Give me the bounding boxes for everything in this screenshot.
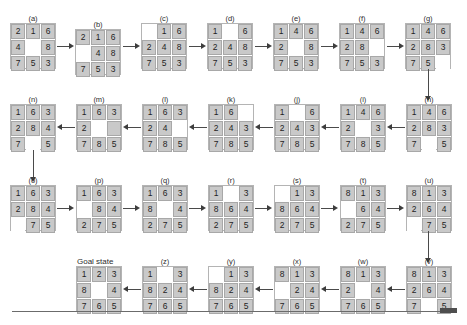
tile: 3 <box>41 105 55 120</box>
tile: 3 <box>107 105 121 120</box>
tile: 6 <box>422 202 436 217</box>
tile: 8 <box>421 40 435 55</box>
arrow-head-icon <box>255 286 260 292</box>
puzzle-grid-l: 1 6 3 2 4 7 8 5 <box>142 104 188 150</box>
tile: 8 <box>238 40 252 55</box>
tile: 2 <box>341 121 355 136</box>
tile: 3 <box>238 56 252 71</box>
arrow-l-m <box>128 127 141 128</box>
tile: 5 <box>107 137 121 152</box>
tile: 7 <box>340 56 354 71</box>
arrow-j-k <box>260 127 273 128</box>
tile: 2 <box>158 283 172 298</box>
arrow-u-v <box>428 231 429 260</box>
tile: 2 <box>142 40 156 55</box>
tile: 3 <box>172 56 186 71</box>
tile: 2 <box>11 121 25 136</box>
node-label-m: (m) <box>76 95 122 104</box>
arrow-head-icon <box>387 286 392 292</box>
node-label-t: (t) <box>340 176 386 185</box>
tile: 2 <box>208 40 222 55</box>
tile: 6 <box>436 24 450 39</box>
tile: 5 <box>173 218 187 233</box>
tile: 3 <box>371 186 385 201</box>
puzzle-grid-d: 1 6 2 4 8 7 5 3 <box>207 23 253 69</box>
arrow-head-icon <box>69 205 74 211</box>
tile: 7 <box>356 218 370 233</box>
tile: 3 <box>371 267 385 282</box>
tile: 6 <box>106 30 120 45</box>
tile: 2 <box>406 40 420 55</box>
tile-blank <box>436 56 450 71</box>
tile: 3 <box>239 121 253 136</box>
tile-blank <box>158 267 172 282</box>
tile: 8 <box>407 267 421 282</box>
tile: 1 <box>208 24 222 39</box>
puzzle-grid-o: 1 6 3 2 8 4 7 5 <box>10 185 56 231</box>
tile: 1 <box>77 105 91 120</box>
arrow-head-icon <box>189 286 194 292</box>
puzzle-grid-b: 2 1 6 4 8 7 5 3 <box>75 29 121 75</box>
tile: 4 <box>41 121 55 136</box>
puzzle-grid-v: 8 1 3 2 6 4 7 5 <box>406 266 452 312</box>
tile: 5 <box>157 56 171 71</box>
tile: 6 <box>370 24 384 39</box>
tile: 3 <box>173 186 187 201</box>
puzzle-grid-g: 1 4 6 2 8 3 7 5 <box>405 23 451 69</box>
tile: 8 <box>106 46 120 61</box>
puzzle-node-c: (c) 1 6 2 4 8 7 5 3 <box>141 14 187 69</box>
tile: 5 <box>107 218 121 233</box>
tile: 5 <box>437 218 451 233</box>
puzzle-grid-e: 1 4 6 2 8 7 5 3 <box>273 23 319 69</box>
tile: 3 <box>107 186 121 201</box>
puzzle-grid-j: 1 6 2 4 3 7 8 5 <box>274 104 320 150</box>
tile: 2 <box>143 218 157 233</box>
tile-blank <box>209 267 223 282</box>
tile: 3 <box>437 267 451 282</box>
tile: 6 <box>26 105 40 120</box>
tile: 7 <box>224 218 238 233</box>
tile: 1 <box>356 267 370 282</box>
tile: 5 <box>41 218 55 233</box>
puzzle-node-h: (h) 1 4 6 2 8 3 7 5 <box>406 95 452 150</box>
node-label-u: (u) <box>406 176 452 185</box>
puzzle-node-i: (i) 1 4 6 2 3 7 8 5 <box>340 95 386 150</box>
tile: 1 <box>422 186 436 201</box>
tile: 1 <box>275 105 289 120</box>
tile-blank <box>341 202 355 217</box>
tile: 4 <box>239 202 253 217</box>
tile-blank <box>275 186 289 201</box>
tile: 8 <box>304 40 318 55</box>
tile: 4 <box>371 283 385 298</box>
node-label-z: (z) <box>142 257 188 266</box>
node-label-r: (r) <box>208 176 254 185</box>
tile: 5 <box>223 56 237 71</box>
tile: 4 <box>239 283 253 298</box>
tile: 5 <box>41 137 55 152</box>
tile: 2 <box>290 283 304 298</box>
node-label-g: (g) <box>405 14 451 23</box>
tile: 2 <box>209 218 223 233</box>
tile-blank <box>370 40 384 55</box>
tile: 3 <box>239 267 253 282</box>
tile: 4 <box>290 121 304 136</box>
tile: 3 <box>305 267 319 282</box>
puzzle-node-a: (a) 2 1 6 4 8 7 5 3 <box>10 14 56 69</box>
tile: 7 <box>422 218 436 233</box>
arrow-head-icon <box>57 124 62 130</box>
tile: 3 <box>305 186 319 201</box>
tile: 2 <box>407 283 421 298</box>
arrow-head-icon <box>399 43 404 49</box>
tile: 1 <box>340 24 354 39</box>
tile: 6 <box>238 24 252 39</box>
tile: 8 <box>290 137 304 152</box>
goal-state-label: Goal state <box>76 257 122 266</box>
tile: 3 <box>106 62 120 77</box>
tile: 7 <box>26 218 40 233</box>
tile: 5 <box>305 137 319 152</box>
tile: 8 <box>341 186 355 201</box>
tile: 2 <box>341 218 355 233</box>
tile: 7 <box>341 137 355 152</box>
tile: 3 <box>304 56 318 71</box>
tile: 7 <box>208 56 222 71</box>
